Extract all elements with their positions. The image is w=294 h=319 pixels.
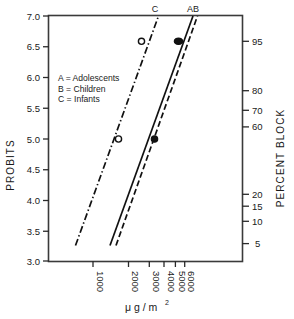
probit-dose-response-chart: 7.0 6.5 6.0 5.5 5.0 4.5 4.0 3.5 3.0 PROB… [0,0,294,319]
left-tick-label: 6.0 [27,72,40,83]
left-axis-title-text: PROBITS [5,139,16,191]
bottom-axis-labels: 1000 2000 3000 4000 5000 6000 [95,271,198,292]
left-axis-title: PROBITS [5,139,16,191]
left-tick-label: 5.0 [27,134,40,145]
bottom-tick-label: 6000 [186,271,197,292]
curve-label-infants: C [152,4,159,14]
right-axis-labels: 95 80 70 60 20 15 10 5 [252,36,263,249]
left-axis-labels: 7.0 6.5 6.0 5.5 5.0 4.5 4.0 3.5 3.0 [27,11,40,267]
right-tick-label: 5 [255,238,260,249]
bottom-axis-title-text: μ g / m [125,301,158,313]
left-tick-label: 6.5 [27,41,40,52]
bottom-axis-title-superscript: 2 [165,299,169,306]
right-axis-title: PERCENT BLOCK [275,109,286,208]
right-tick-label: 95 [252,36,263,47]
right-tick-label: 15 [252,201,263,212]
marker-adolescents-children-probit-6645 [174,38,182,44]
right-tick-label: 20 [252,189,263,200]
marker-infants-probit-5 [115,136,121,142]
legend-item-adolescents: A = Adolescents [58,73,119,83]
bottom-axis-title: μ g / m 2 [125,299,169,313]
bottom-tick-label: 2000 [130,271,141,292]
legend: A = Adolescents B = Children C = Infants [58,73,119,104]
series-line-infants [76,16,159,246]
left-tick-label: 7.0 [27,11,40,22]
right-axis-title-text: PERCENT BLOCK [275,109,286,208]
curve-labels: C AB [152,4,199,14]
left-tick-label: 3.0 [27,256,40,267]
legend-item-infants: C = Infants [58,94,100,104]
bottom-tick-label: 1000 [95,271,106,292]
left-tick-label: 5.5 [27,103,40,114]
left-tick-label: 3.5 [27,226,40,237]
data-markers [115,38,182,142]
left-tick-label: 4.5 [27,164,40,175]
series-line-adolescents [110,16,193,246]
curve-label-adolescents-children: AB [187,4,199,14]
marker-infants-probit-6645 [138,38,144,44]
right-tick-label: 80 [252,85,263,96]
right-tick-label: 70 [252,105,263,116]
left-tick-label: 4.0 [27,195,40,206]
legend-item-children: B = Children [58,84,106,94]
series-line-children [116,16,198,246]
bottom-tick-label: 3000 [151,271,162,292]
bottom-tick-label: 4000 [166,271,177,292]
right-tick-label: 60 [252,121,263,132]
right-tick-label: 10 [252,216,263,227]
marker-adolescents-probit-5 [151,136,157,142]
